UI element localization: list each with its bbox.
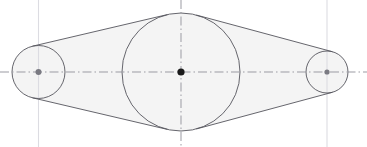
technical-drawing-svg xyxy=(0,0,367,147)
center-pulley-center-marker xyxy=(177,68,184,75)
left-pulley-center-marker xyxy=(36,69,42,75)
right-pulley-center-marker xyxy=(324,69,329,74)
drawing-canvas xyxy=(0,0,367,147)
